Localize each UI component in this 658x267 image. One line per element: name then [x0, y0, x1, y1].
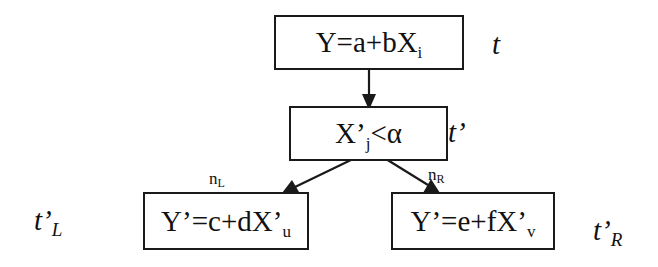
- split-node: X’j<α: [289, 106, 448, 161]
- edge-label-left-subscript: L: [218, 176, 225, 190]
- regression-tree-diagram: Y=a+bXi t X’j<α t’ nL nR Y’=c+dX’u t’L Y…: [0, 0, 658, 267]
- root-label-main: t: [492, 28, 500, 60]
- split-condition: X’j<α: [335, 119, 402, 148]
- split-node-label: t’: [448, 118, 466, 147]
- root-node-label: t: [492, 30, 500, 59]
- right-child-equation-main: Y’=e+fX’: [411, 205, 527, 237]
- left-child-label: t’L: [34, 206, 62, 235]
- right-child-equation: Y’=e+fX’v: [411, 207, 536, 236]
- root-node: Y=a+bXi: [274, 15, 464, 70]
- edge-split-to-left: [282, 159, 353, 193]
- split-label-main: t’: [448, 116, 466, 148]
- edge-label-left: nL: [209, 170, 225, 187]
- root-equation-main: Y=a+bX: [316, 26, 418, 58]
- left-child-equation-subscript: u: [282, 222, 291, 241]
- left-child-equation: Y’=c+dX’u: [161, 207, 291, 236]
- right-child-label-subscript: R: [611, 229, 623, 250]
- root-equation: Y=a+bXi: [316, 28, 423, 57]
- right-child-label: t’R: [593, 216, 622, 245]
- edge-label-right-subscript: R: [437, 172, 445, 186]
- edge-label-left-main: n: [209, 169, 218, 188]
- left-child-node: Y’=c+dX’u: [143, 192, 309, 250]
- right-child-node: Y’=e+fX’v: [391, 192, 555, 250]
- left-child-equation-main: Y’=c+dX’: [161, 205, 282, 237]
- left-child-label-main: t’: [34, 204, 52, 236]
- right-child-equation-subscript: v: [527, 222, 536, 241]
- right-child-label-main: t’: [593, 214, 611, 246]
- edge-root-to-split: [362, 69, 376, 110]
- root-equation-subscript: i: [418, 43, 423, 62]
- left-child-label-subscript: L: [52, 219, 63, 240]
- split-condition-tail: <α: [370, 117, 402, 149]
- edge-label-right-main: n: [428, 165, 437, 184]
- split-condition-main: X’: [335, 117, 366, 149]
- edge-label-right: nR: [428, 166, 445, 183]
